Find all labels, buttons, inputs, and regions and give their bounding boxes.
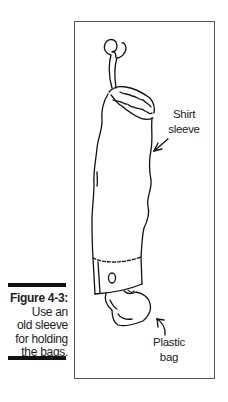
plastic-bag-label-line-1: Plastic <box>150 335 188 350</box>
caption-line: old sleeve <box>0 319 68 333</box>
caption-top-rule <box>8 283 66 287</box>
shirt-sleeve-label: Shirt sleeve <box>166 107 202 137</box>
cuff-button-icon <box>109 273 116 283</box>
plastic-bag-arrow-icon <box>157 319 165 335</box>
caption-line: Use an <box>0 306 68 320</box>
caption-line: for holding <box>0 333 68 347</box>
shirt-sleeve-arrow-icon <box>154 139 168 151</box>
plastic-bag-drawing <box>105 290 150 326</box>
sleeve-top-ruffle <box>92 87 154 257</box>
sleeve-cuff <box>93 257 142 294</box>
figure-caption: Figure 4-3: Use an old sleeve for holdin… <box>0 292 68 360</box>
shirt-sleeve-label-line-1: Shirt <box>166 107 202 122</box>
shirt-sleeve-label-line-2: sleeve <box>166 122 202 137</box>
figure-number: Figure 4-3: <box>0 292 68 306</box>
caption-bottom-rule <box>8 356 66 360</box>
plastic-bag-label: Plastic bag <box>150 335 188 365</box>
hanger-hook-icon <box>104 40 126 88</box>
plastic-bag-label-line-2: bag <box>150 350 188 365</box>
